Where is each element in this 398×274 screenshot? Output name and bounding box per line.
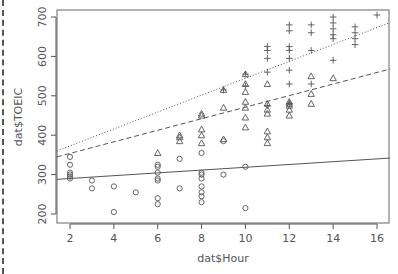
x-tick-label: 2 [67,232,74,245]
plus-marker [286,67,293,74]
circle-marker [89,186,94,191]
triangle-marker [308,100,314,106]
x-tick-label: 16 [370,232,384,245]
x-tick-label: 4 [110,232,117,245]
plus-marker [286,22,293,29]
circle-marker [243,205,248,210]
x-tick-label: 12 [282,232,296,245]
circle-marker [67,162,72,167]
circle-marker [199,150,204,155]
triangle-marker [308,73,314,79]
circle-marker [89,178,94,183]
plus-marker [374,12,381,19]
axes: 246810121416200300400500600700 [36,7,384,246]
plus-marker [352,29,359,36]
x-tick-label: 14 [326,232,340,245]
plus-marker [308,29,315,36]
fit-solid-line [57,158,390,179]
circle-marker [111,184,116,189]
plus-marker [264,47,271,54]
triangle-marker [330,75,336,81]
triangle-marker [286,112,292,118]
plot-frame [57,10,389,223]
triangle-marker [198,126,204,132]
plot-box [57,10,389,223]
plus-marker [352,24,359,31]
plus-marker [286,55,293,62]
circle-marker [155,196,160,201]
circle-marker [111,209,116,214]
circle-marker [221,172,226,177]
circle-marker [199,184,204,189]
x-axis-label: dat$Hour [197,252,249,265]
plus-marker [308,81,315,88]
triangle-marker [242,99,248,105]
plus-marker [286,27,293,34]
plus-marker [330,26,337,33]
triangle-marker [155,150,161,156]
plus-marker [352,41,359,48]
triangle-marker [242,114,248,120]
plus-marker [308,22,315,29]
circle-marker [199,200,204,205]
scatter-plot: 246810121416200300400500600700 dat$Hour … [0,0,398,274]
y-tick-label: 400 [36,125,49,146]
plus-marker [330,14,337,21]
circle-marker [177,156,182,161]
triangle-marker [242,124,248,130]
y-tick-label: 200 [36,204,49,225]
triangle-marker [198,140,204,146]
triangle-marker [308,91,314,97]
triangle-marker [220,104,226,110]
y-tick-label: 600 [36,46,49,67]
y-axis-label: dat$TOEIC [12,88,25,147]
triangle-marker [264,81,270,87]
circle-marker [177,186,182,191]
triangle-marker [264,128,270,134]
y-tick-label: 700 [36,7,49,28]
triangle-marker [264,134,270,140]
circle-marker [67,154,72,159]
plus-marker [330,20,337,27]
plus-marker [352,35,359,42]
y-tick-label: 500 [36,85,49,106]
circle-marker [199,176,204,181]
regression-lines [57,23,390,180]
circle-marker [155,202,160,207]
x-tick-label: 8 [198,232,205,245]
plus-marker [308,47,315,54]
y-tick-label: 300 [36,164,49,185]
triangle-marker [198,132,204,138]
plus-marker [264,102,271,109]
triangle-marker [242,89,248,95]
x-tick-label: 10 [238,232,252,245]
plus-marker [330,57,337,64]
plus-marker [330,35,337,42]
circle-marker [133,190,138,195]
plus-marker [242,83,249,90]
triangle-marker [264,140,270,146]
plus-marker [264,55,271,62]
circle-marker [199,194,204,199]
plus-marker [264,69,271,76]
plus-marker [286,81,293,88]
x-tick-label: 6 [154,232,161,245]
plus-marker [286,47,293,54]
